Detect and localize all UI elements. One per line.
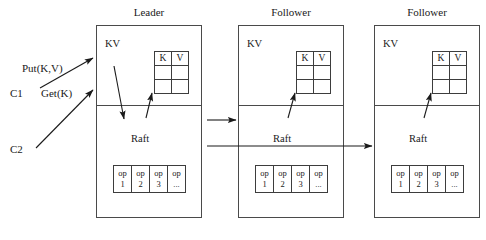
log-cell-op: op [292,168,309,179]
log-table-follower-2: op 1 op 2 op 3 op ... [391,165,464,193]
log-cell-index: ... [446,179,463,190]
kv-table-header-row: K V [433,52,467,66]
kv-header-key: K [297,52,314,66]
log-cell-index: 3 [150,179,167,190]
kv-layer-label-follower-1: KV [247,38,262,49]
diagram-canvas: Leader KV Raft K V op 1 op 2 [0,0,486,240]
log-cell-index: 3 [292,179,309,190]
log-table-leader: op 1 op 2 op 3 op ... [113,165,186,193]
log-cell-op: op [446,168,463,179]
kv-header-value: V [450,52,467,66]
log-cell: op 3 [150,166,168,193]
log-cell: op 2 [410,166,428,193]
log-cell-index: 1 [392,179,409,190]
kv-table-row [297,80,331,94]
log-cell: op ... [310,166,328,193]
log-cell: op 2 [132,166,150,193]
client-operation-put: Put(K,V) [22,62,63,74]
log-cell-index: 2 [274,179,291,190]
kv-table-row [155,66,189,80]
kv-header-value: V [172,52,189,66]
log-table-row: op 1 op 2 op 3 op ... [392,166,464,193]
log-table-row: op 1 op 2 op 3 op ... [114,166,186,193]
kv-layer-label-follower-2: KV [383,38,398,49]
log-cell-index: 1 [256,179,273,190]
node-divider-follower-2 [374,105,480,106]
log-cell-op: op [114,168,131,179]
kv-cell [450,80,467,94]
kv-table-leader: K V [154,51,189,94]
raft-layer-label-leader: Raft [131,133,149,144]
log-cell-op: op [256,168,273,179]
kv-header-key: K [433,52,450,66]
kv-cell [297,66,314,80]
kv-cell [172,80,189,94]
log-cell-index: ... [310,179,327,190]
client-operation-get: Get(K) [41,87,72,99]
kv-header-value: V [314,52,331,66]
kv-table-follower-2: K V [432,51,467,94]
kv-cell [172,66,189,80]
kv-cell [155,66,172,80]
kv-cell [450,66,467,80]
kv-table-header-row: K V [155,52,189,66]
log-cell: op ... [168,166,186,193]
kv-cell [314,66,331,80]
node-title-leader: Leader [96,6,202,18]
log-cell: op 1 [114,166,132,193]
log-cell-op: op [150,168,167,179]
node-title-follower-2: Follower [374,6,480,18]
log-cell-index: ... [168,179,185,190]
log-table-follower-1: op 1 op 2 op 3 op ... [255,165,328,193]
kv-table-header-row: K V [297,52,331,66]
node-title-follower-1: Follower [238,6,344,18]
client-label-c2: C2 [10,143,23,155]
raft-layer-label-follower-1: Raft [273,133,291,144]
raft-layer-label-follower-2: Raft [409,133,427,144]
kv-table-row [433,66,467,80]
kv-table-row [155,80,189,94]
kv-table-row [433,80,467,94]
node-divider-follower-1 [238,105,344,106]
kv-cell [433,80,450,94]
log-cell-op: op [132,168,149,179]
log-cell: op 3 [292,166,310,193]
log-cell: op 3 [428,166,446,193]
log-table-row: op 1 op 2 op 3 op ... [256,166,328,193]
log-cell-op: op [428,168,445,179]
log-cell: op ... [446,166,464,193]
kv-cell [433,66,450,80]
kv-cell [314,80,331,94]
log-cell-index: 1 [114,179,131,190]
log-cell-index: 2 [410,179,427,190]
kv-header-key: K [155,52,172,66]
kv-layer-label-leader: KV [105,38,120,49]
log-cell-op: op [410,168,427,179]
log-cell: op 1 [392,166,410,193]
log-cell-op: op [274,168,291,179]
kv-table-row [297,66,331,80]
kv-cell [297,80,314,94]
kv-cell [155,80,172,94]
log-cell-index: 3 [428,179,445,190]
log-cell-op: op [168,168,185,179]
log-cell-op: op [310,168,327,179]
log-cell-index: 2 [132,179,149,190]
log-cell: op 1 [256,166,274,193]
client-label-c1: C1 [10,87,23,99]
log-cell: op 2 [274,166,292,193]
log-cell-op: op [392,168,409,179]
node-divider-leader [96,105,202,106]
kv-table-follower-1: K V [296,51,331,94]
